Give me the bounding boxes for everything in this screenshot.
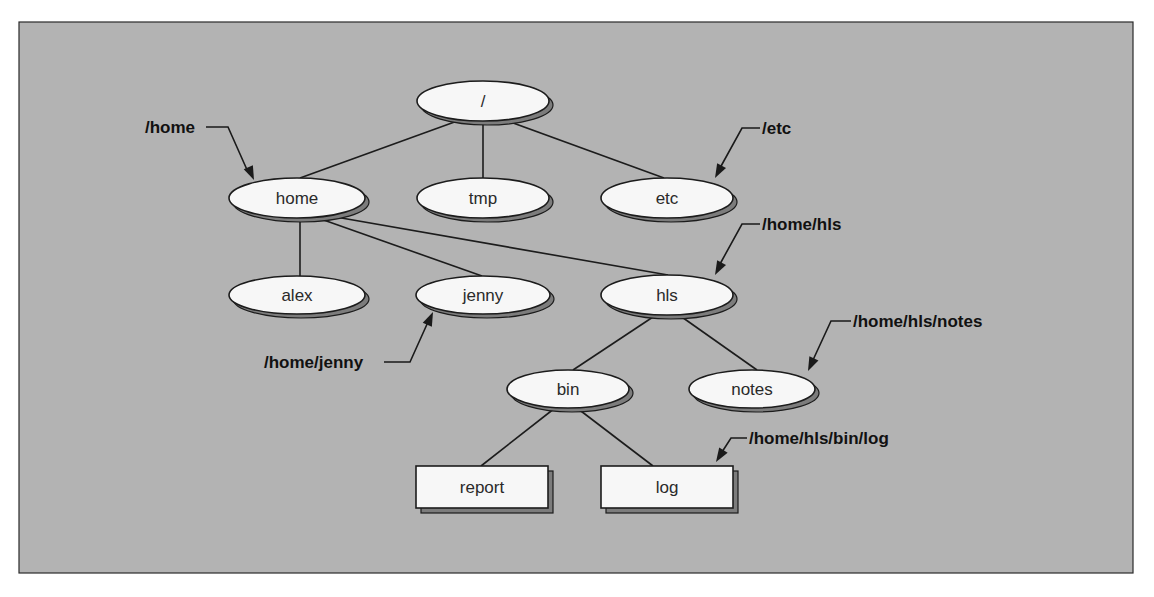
node-label: notes — [731, 380, 773, 399]
node-root[interactable]: / — [417, 81, 553, 125]
pathname-label: /home/jenny — [264, 353, 364, 372]
pathname-label: /etc — [762, 119, 791, 138]
node-hls[interactable]: hls — [601, 275, 737, 319]
pathname-label: /home/hls/notes — [853, 312, 982, 331]
node-label: report — [460, 478, 505, 497]
node-jenny[interactable]: jenny — [416, 276, 554, 318]
node-label: log — [656, 478, 679, 497]
node-label: hls — [656, 286, 678, 305]
node-label: etc — [656, 189, 679, 208]
node-tmp[interactable]: tmp — [417, 178, 553, 222]
node-label: jenny — [462, 286, 504, 305]
node-home[interactable]: home — [229, 178, 369, 222]
node-label: tmp — [469, 189, 497, 208]
node-notes[interactable]: notes — [689, 370, 819, 412]
node-report[interactable]: report — [416, 466, 553, 513]
node-label: home — [276, 189, 319, 208]
node-etc[interactable]: etc — [601, 178, 737, 222]
node-label: bin — [557, 380, 580, 399]
directory-tree-diagram: /hometmpetcalexjennyhlsbinnotesreportlog… — [0, 0, 1154, 597]
node-bin[interactable]: bin — [507, 370, 633, 412]
pathname-label: /home/hls — [762, 215, 841, 234]
node-label: alex — [281, 286, 313, 305]
node-log[interactable]: log — [601, 466, 738, 513]
diagram-frame — [19, 22, 1133, 573]
node-label: / — [481, 92, 486, 111]
pathname-label: /home/hls/bin/log — [749, 429, 889, 448]
node-alex[interactable]: alex — [229, 276, 369, 318]
pathname-label: /home — [145, 118, 195, 137]
